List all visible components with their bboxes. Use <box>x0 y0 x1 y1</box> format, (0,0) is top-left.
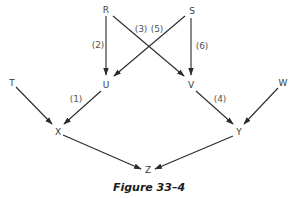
edge-w-to-y <box>244 88 278 124</box>
node-r: R <box>103 5 109 15</box>
node-z: Z <box>145 165 151 175</box>
edge-label-2: (2) <box>92 40 105 50</box>
edge-label-4: (4) <box>214 94 227 104</box>
edge-label-5: (5) <box>151 24 164 34</box>
figure-caption: Figure 33–4 <box>113 181 185 194</box>
node-x: X <box>55 127 61 137</box>
edge-t-to-x <box>16 87 52 124</box>
edge-label-3: (3) <box>135 24 148 34</box>
node-s: S <box>189 6 195 16</box>
node-t: T <box>8 78 15 88</box>
edge-r-to-v <box>113 16 184 76</box>
edge-label-6: (6) <box>196 41 209 51</box>
edge-y-to-z <box>155 136 233 169</box>
node-v: V <box>188 80 195 90</box>
edge-x-to-z <box>63 135 141 169</box>
edge-s-to-u <box>114 16 185 76</box>
node-w: W <box>279 78 288 88</box>
node-u: U <box>103 80 110 90</box>
node-y: Y <box>235 127 242 137</box>
edge-label-1: (1) <box>70 94 83 104</box>
causal-diagram: R S U V T W X Y Z (2) (3) (5) (6) (1) (4… <box>0 0 292 198</box>
